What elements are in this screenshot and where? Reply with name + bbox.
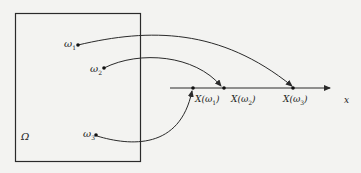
point-X-omega1 [191, 86, 195, 90]
label-X-omega3: X(ω3) [283, 95, 308, 106]
label-X-omega1: X(ω1) [195, 95, 220, 106]
mapping-arrow-omega2 [104, 58, 221, 86]
label-sample-space: Ω [21, 132, 29, 142]
label-X-omega2: X(ω2) [231, 95, 256, 106]
random-variable-diagram: Ω ω1 ω2 ω3 X(ω1) X(ω2) X(ω3) x [0, 0, 361, 173]
point-X-omega3 [291, 86, 295, 90]
axis-label-x: x [344, 96, 349, 105]
sample-space-box [16, 14, 141, 162]
point-X-omega2 [222, 86, 226, 90]
point-omega2 [102, 66, 106, 70]
label-omega2: ω2 [90, 64, 102, 76]
diagram-canvas [0, 0, 361, 173]
point-omega1 [76, 43, 80, 47]
label-omega3: ω3 [83, 129, 95, 141]
mapping-arrow-omega1 [78, 35, 292, 86]
mapping-arrow-omega3 [97, 91, 192, 142]
label-omega1: ω1 [64, 39, 76, 51]
